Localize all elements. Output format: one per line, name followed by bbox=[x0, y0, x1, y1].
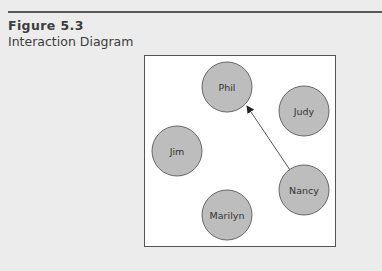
node-label-judy: Judy bbox=[293, 106, 315, 117]
node-label-phil: Phil bbox=[218, 82, 235, 93]
node-nancy: Nancy bbox=[279, 165, 329, 215]
node-phil: Phil bbox=[202, 62, 252, 112]
interaction-diagram: Phil Judy Jim Nancy Marilyn bbox=[0, 0, 382, 271]
node-jim: Jim bbox=[152, 126, 202, 176]
node-label-marilyn: Marilyn bbox=[210, 210, 245, 221]
node-label-jim: Jim bbox=[169, 146, 185, 157]
node-marilyn: Marilyn bbox=[202, 190, 252, 240]
node-label-nancy: Nancy bbox=[289, 185, 319, 196]
node-judy: Judy bbox=[279, 86, 329, 136]
